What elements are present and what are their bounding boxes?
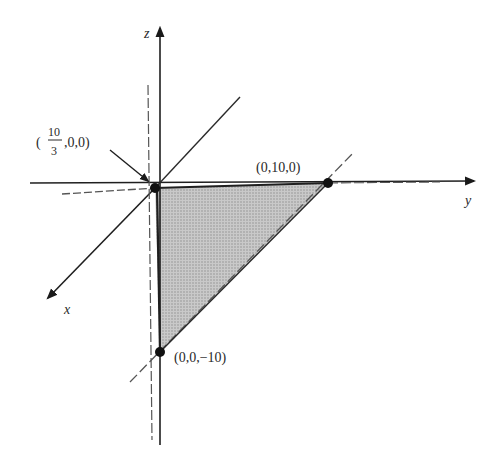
x-intercept-coords: ,0,0) [64,135,90,151]
x-axis-line [48,188,155,298]
point-y-intercept [323,178,333,188]
z-axis-label: z [143,26,150,41]
point-z-intercept [155,347,165,357]
x-axis-line-upper [155,97,240,188]
x-intercept-paren: ( [36,135,41,151]
plane-intercepts-diagram: z y x ( 10 3 ,0,0) (0,10,0) (0,0,−10) [0,0,497,469]
dashed-trace-xy-left [62,188,155,194]
x-intercept-denominator: 3 [51,144,57,158]
y-intercept-label: (0,10,0) [256,160,301,176]
x-intercept-label: ( 10 3 ,0,0) [36,125,90,158]
point-x-intercept [150,183,160,193]
y-axis-label: y [463,193,472,208]
x-intercept-numerator: 10 [48,125,60,139]
z-intercept-label: (0,0,−10) [174,350,227,366]
dashed-trace-xz [148,85,152,440]
x-axis-label: x [63,302,71,317]
x-intercept-leader-arrow [110,150,148,181]
